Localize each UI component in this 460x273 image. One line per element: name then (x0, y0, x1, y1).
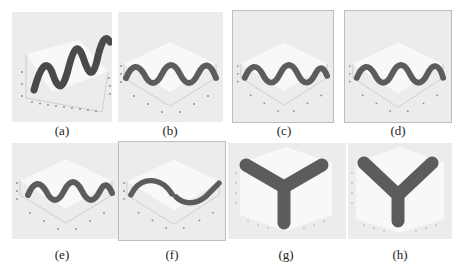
plot-f (119, 142, 225, 240)
panel-a (12, 12, 112, 122)
panel-h (348, 143, 452, 239)
plot-c (233, 11, 333, 122)
caption-g: (g) (266, 247, 306, 263)
panel-b (118, 12, 223, 122)
plot-h (348, 143, 452, 239)
caption-f: (f) (152, 247, 192, 263)
caption-e: (e) (42, 247, 82, 263)
z-ticks (21, 71, 23, 97)
caption-a: (a) (42, 123, 82, 139)
panel-c (232, 10, 334, 123)
x-ticks (31, 101, 97, 112)
plot-a (12, 12, 112, 122)
panel-f (118, 141, 226, 241)
panel-e (12, 143, 118, 239)
caption-c: (c) (264, 123, 304, 139)
panel-g (228, 143, 346, 239)
plot-d (345, 11, 451, 122)
plot-b (118, 12, 223, 122)
caption-h: (h) (380, 247, 420, 263)
caption-d: (d) (378, 123, 418, 139)
caption-b: (b) (150, 123, 190, 139)
panel-d (344, 10, 452, 123)
plot-e (12, 143, 118, 239)
y-ticks (108, 77, 111, 95)
plot-g (228, 143, 346, 239)
